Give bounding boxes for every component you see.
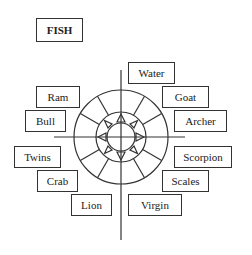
- label-water: Water: [128, 62, 175, 84]
- label-scales: Scales: [162, 170, 209, 192]
- label-lion: Lion: [71, 194, 112, 216]
- label-crab: Crab: [37, 170, 78, 192]
- label-goat: Goat: [162, 86, 209, 108]
- label-bull: Bull: [25, 110, 66, 132]
- label-archer: Archer: [174, 110, 227, 132]
- label-ram: Ram: [36, 86, 80, 108]
- title-box: FISH: [36, 18, 83, 42]
- label-virgin: Virgin: [128, 194, 182, 216]
- label-twins: Twins: [14, 146, 61, 168]
- label-scorpion: Scorpion: [174, 146, 232, 168]
